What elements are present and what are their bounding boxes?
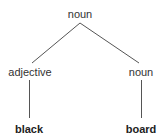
leaf-word-black: black <box>15 123 43 135</box>
node-adjective: adjective <box>8 66 51 78</box>
edge-root-noun <box>80 23 139 63</box>
node-noun: noun <box>129 66 153 78</box>
leaf-word-board: board <box>126 123 157 135</box>
edge-root-adjective <box>32 23 80 63</box>
node-root-noun: noun <box>68 8 92 20</box>
